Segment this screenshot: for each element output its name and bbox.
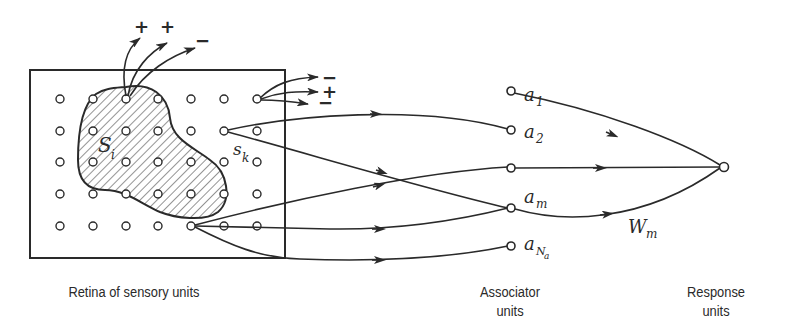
retina-to-associator-connections: [195, 114, 508, 260]
associator-label-na-subsub: a: [544, 251, 549, 261]
response-unit: [720, 163, 729, 172]
right-sign-3: −: [318, 92, 333, 113]
associator-label-m-sub: m: [536, 197, 547, 211]
response-caption-line2: units: [661, 302, 771, 321]
associator-label-na: a: [524, 233, 535, 254]
associator-caption-line2: units: [455, 302, 565, 321]
associator-label-1: a: [524, 84, 535, 105]
retina-caption: Retina of sensory units: [68, 283, 261, 302]
associator-unit-m: [507, 204, 515, 212]
right-output-signals: [260, 77, 318, 104]
associator-label-2-sub: 2: [535, 132, 544, 146]
associator-units: [507, 87, 515, 250]
associator-caption-line1: Associator: [455, 283, 565, 302]
weight-label: W: [628, 216, 648, 237]
region-label: S: [98, 133, 112, 157]
response-caption-line1: Response: [661, 283, 771, 302]
top-sign-3: −: [195, 30, 210, 51]
weight-label-sub: m: [646, 227, 657, 241]
top-sign-1: +: [134, 16, 149, 37]
response-caption: Response units: [661, 283, 771, 321]
region-label-subscript: i: [111, 148, 115, 162]
associator-label-m: a: [524, 186, 535, 207]
associator-unit-1: [507, 87, 515, 95]
associator-unit-2: [507, 126, 515, 134]
unit-label: s: [233, 139, 242, 159]
associator-label-2: a: [524, 121, 535, 142]
associator-caption: Associator units: [455, 283, 565, 321]
top-sign-2: +: [160, 16, 175, 37]
associator-unit-3: [507, 164, 515, 172]
unit-label-subscript: k: [242, 151, 249, 165]
associator-unit-na: [507, 242, 515, 250]
